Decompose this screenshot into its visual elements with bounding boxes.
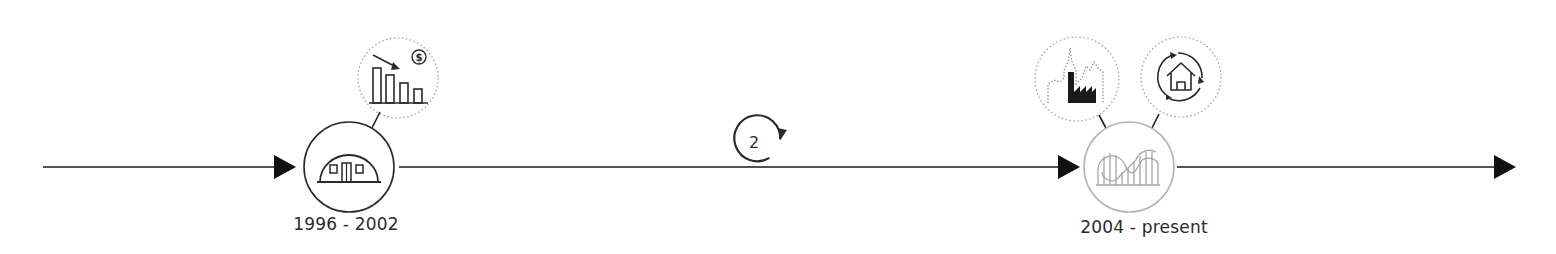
timeline-segment-end xyxy=(1177,155,1516,179)
timeline-segment-start xyxy=(43,155,296,179)
cycle-count-label: 2 xyxy=(749,133,759,152)
stage-1-date-label: 1996 - 2002 xyxy=(293,214,399,234)
arrowhead-icon xyxy=(1058,155,1080,179)
house-cycle-icon xyxy=(1141,37,1221,117)
stage-1: $ xyxy=(304,38,438,212)
svg-text:$: $ xyxy=(416,52,423,63)
roller-coaster-icon xyxy=(1084,122,1174,212)
declining-bar-chart-dollar-icon: $ xyxy=(358,38,438,118)
city-skyline-factory-icon xyxy=(1035,37,1119,121)
arrowhead-icon xyxy=(274,155,296,179)
connector-line xyxy=(372,112,380,128)
stage-2-date-label: 2004 - present xyxy=(1080,217,1208,237)
quonset-hut-icon xyxy=(304,122,394,212)
timeline-diagram: $ xyxy=(0,0,1556,254)
arrowhead-icon xyxy=(1494,155,1516,179)
stage-2 xyxy=(1035,37,1221,212)
timeline-segment-middle xyxy=(399,155,1080,179)
